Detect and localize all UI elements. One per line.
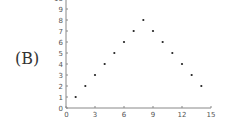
y-tick-label: 3 bbox=[59, 72, 63, 80]
y-tick-label: 10 bbox=[54, 0, 63, 3]
data-points bbox=[75, 19, 203, 98]
x-tick-label: 0 bbox=[64, 111, 68, 119]
x-tick-label: 3 bbox=[93, 111, 97, 119]
y-tick-label: 8 bbox=[59, 17, 63, 25]
data-point bbox=[113, 52, 115, 54]
data-point bbox=[133, 30, 135, 32]
y-tick-label: 0 bbox=[59, 105, 63, 113]
data-point bbox=[162, 41, 164, 43]
y-tick-label: 4 bbox=[59, 61, 64, 69]
data-point bbox=[123, 41, 125, 43]
data-point bbox=[200, 85, 202, 87]
y-tick-label: 1 bbox=[59, 94, 63, 102]
x-tick-label: 6 bbox=[122, 111, 127, 119]
data-point bbox=[75, 96, 77, 98]
x-tick-label: 12 bbox=[178, 111, 187, 119]
data-point bbox=[94, 74, 96, 76]
data-point bbox=[84, 85, 86, 87]
data-point bbox=[152, 30, 154, 32]
x-tick-label: 9 bbox=[151, 111, 155, 119]
data-point bbox=[104, 63, 106, 65]
data-point bbox=[171, 52, 173, 54]
x-tick-label: 15 bbox=[207, 111, 216, 119]
y-tick-label: 6 bbox=[59, 39, 64, 47]
scatter-chart: 03691215012345678910 bbox=[0, 0, 228, 127]
y-tick-label: 7 bbox=[59, 28, 63, 36]
y-tick-label: 2 bbox=[59, 83, 63, 91]
data-point bbox=[181, 63, 183, 65]
data-point bbox=[191, 74, 193, 76]
axes: 03691215012345678910 bbox=[54, 0, 215, 119]
y-tick-label: 9 bbox=[59, 6, 63, 14]
data-point bbox=[142, 19, 144, 21]
y-tick-label: 5 bbox=[59, 50, 63, 58]
